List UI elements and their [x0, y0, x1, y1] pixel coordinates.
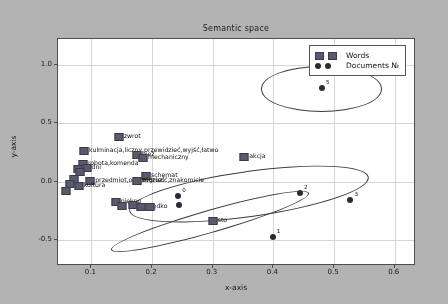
word-marker: [132, 177, 141, 185]
x-tick-mark: [272, 265, 273, 268]
page-title: Semantic space: [57, 24, 415, 33]
word-marker: [208, 217, 217, 225]
document-marker: [176, 202, 182, 208]
y-tick-label: 0.0: [30, 177, 52, 185]
y-axis-label: y-axis: [9, 117, 18, 177]
document-marker: [270, 234, 276, 240]
x-tick-mark: [90, 265, 91, 268]
document-marker: [297, 190, 303, 196]
x-tick-mark: [151, 265, 152, 268]
word-label: mechaniczny: [148, 152, 189, 159]
document-label: 3: [354, 191, 358, 197]
semantic-space-figure: Semantic space y-axis x-axis 0.10.20.30.…: [0, 0, 448, 304]
x-tick-label: 0.5: [328, 268, 339, 276]
word-marker: [61, 187, 70, 195]
word-marker: [240, 153, 249, 161]
word-label: kultura: [84, 180, 106, 187]
word-marker: [80, 147, 89, 155]
gridline-vertical: [273, 39, 274, 264]
x-tick-label: 0.1: [85, 268, 96, 276]
document-marker: [347, 197, 353, 203]
x-tick-label: 0.6: [388, 268, 399, 276]
legend-label-words: Words: [346, 51, 369, 60]
words-marker-icon: [315, 52, 343, 60]
word-label: akcja: [249, 151, 265, 158]
document-marker: [175, 193, 181, 199]
x-axis-label: x-axis: [57, 283, 415, 292]
x-tick-label: 0.3: [206, 268, 217, 276]
document-label: 0: [182, 187, 186, 193]
y-tick-label: 0.5: [30, 118, 52, 126]
gridline-horizontal: [58, 240, 414, 241]
word-marker: [145, 203, 154, 211]
word-marker: [138, 154, 147, 162]
x-tick-mark: [212, 265, 213, 268]
plot-area: zwrotkulminacja,liczny,przewidzieć,wyjść…: [57, 38, 415, 265]
legend-item-documents: Documents №: [315, 61, 399, 70]
word-marker: [74, 182, 83, 190]
legend[interactable]: Words Documents №: [309, 45, 406, 76]
gridline-horizontal: [58, 123, 414, 124]
x-tick-label: 0.4: [267, 268, 278, 276]
document-label: 5: [326, 79, 330, 85]
legend-item-words: Words: [315, 51, 399, 60]
y-tick-label: 1.0: [30, 60, 52, 68]
legend-label-documents: Documents №: [346, 61, 399, 70]
x-tick-mark: [333, 265, 334, 268]
documents-marker-icon: [315, 63, 343, 69]
document-label: 2: [304, 184, 308, 190]
y-tick-label: -0.5: [30, 235, 52, 243]
word-label: sto: [218, 216, 227, 223]
ellipse-cluster-middle: [126, 154, 372, 234]
word-marker: [114, 133, 123, 141]
word-label: zagrozić,znakomicie: [142, 175, 204, 182]
x-tick-mark: [394, 265, 395, 268]
x-tick-label: 0.2: [145, 268, 156, 276]
word-label: dni: [92, 162, 102, 169]
word-label: zwrot: [124, 131, 141, 138]
word-marker: [117, 202, 126, 210]
document-marker: [319, 85, 325, 91]
document-label: 1: [277, 228, 281, 234]
